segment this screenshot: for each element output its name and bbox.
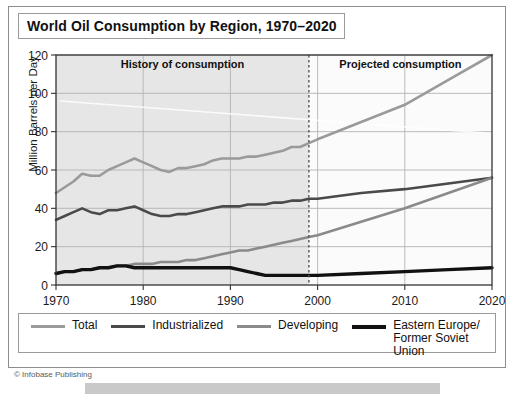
y-tick-label: 100 (28, 87, 48, 101)
legend-swatch (352, 325, 386, 329)
y-tick-label: 60 (35, 164, 49, 178)
legend-item-total[interactable]: Total (31, 319, 97, 332)
x-tick-label: 1970 (43, 294, 70, 308)
legend-label: Total (72, 319, 97, 332)
x-tick-label: 1990 (217, 294, 244, 308)
x-tick-label: 2020 (479, 294, 506, 308)
legend-swatch (237, 325, 271, 328)
legend-items: TotalIndustrializedDevelopingEastern Eur… (31, 319, 495, 358)
legend-label: Eastern Europe/ Former Soviet Union (393, 319, 481, 358)
chart-legend: TotalIndustrializedDevelopingEastern Eur… (18, 313, 496, 353)
legend-item-industrialized[interactable]: Industrialized (111, 319, 223, 332)
figure-root: World Oil Consumption by Region, 1970–20… (0, 0, 522, 394)
legend-item-developing[interactable]: Developing (237, 319, 338, 332)
legend-swatch (111, 325, 145, 328)
x-tick-label: 2010 (391, 294, 418, 308)
x-tick-label: 2000 (304, 294, 331, 308)
y-tick-label: 120 (28, 49, 48, 63)
y-tick-label: 40 (35, 202, 49, 216)
y-tick-label: 20 (35, 240, 49, 254)
legend-label: Industrialized (152, 319, 223, 332)
x-tick-label: 1980 (130, 294, 157, 308)
y-tick-label: 80 (35, 125, 49, 139)
y-tick-label: 0 (41, 279, 48, 293)
annotation-projected: Projected consumption (339, 58, 462, 70)
annotation-history: History of consumption (121, 58, 245, 70)
legend-label: Developing (278, 319, 338, 332)
copyright-notice: © Infobase Publishing (14, 370, 92, 379)
legend-item-eastern-europe-former-soviet-union[interactable]: Eastern Europe/ Former Soviet Union (352, 319, 481, 358)
bottom-strip (85, 383, 440, 394)
legend-swatch (31, 325, 65, 328)
